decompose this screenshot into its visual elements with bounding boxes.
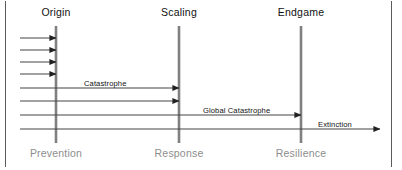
phase-top-label-origin: Origin	[41, 6, 70, 18]
phase-top-label-endgame: Endgame	[278, 6, 324, 18]
flow-lines-group	[20, 38, 380, 129]
diagram-canvas	[0, 0, 402, 170]
phase-bottom-label-endgame: Resilience	[276, 147, 326, 159]
phase-bottom-label-origin: Prevention	[30, 147, 82, 159]
flow-label-global-catastrophe: Global Catastrophe	[203, 106, 270, 115]
phase-top-label-scaling: Scaling	[161, 6, 197, 18]
flow-label-catastrophe-1: Catastrophe	[84, 79, 126, 88]
diagram-figure: OriginScalingEndgame PreventionResponseR…	[0, 0, 402, 170]
phase-bottom-label-scaling: Response	[155, 147, 204, 159]
flow-label-extinction: Extinction	[318, 120, 352, 129]
